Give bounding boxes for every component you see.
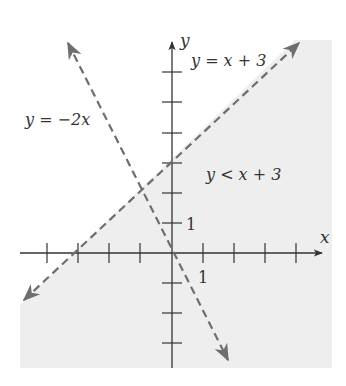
x-axis-label: x (320, 227, 330, 247)
line1-label: y = x + 3 (190, 51, 266, 70)
x-tick-one-label: 1 (198, 268, 208, 287)
line2-label: y = −2x (24, 110, 90, 129)
inequality-graph: y x y = x + 3 y = −2x y < x + 3 1 1 (0, 0, 346, 386)
region-label: y < x + 3 (205, 165, 281, 184)
shaded-region (20, 40, 332, 368)
y-axis-label: y (179, 30, 190, 50)
y-tick-one-label: 1 (186, 215, 196, 234)
